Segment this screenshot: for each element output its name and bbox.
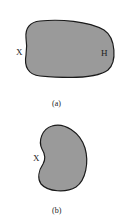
figure-canvas: X H (a) X (b) xyxy=(0,0,119,216)
label-h-a: H xyxy=(101,48,108,58)
label-x-a: X xyxy=(16,47,23,57)
label-x-b: X xyxy=(33,153,40,163)
panel-a: X H (a) xyxy=(16,20,114,108)
caption-a: (a) xyxy=(52,99,61,108)
caption-b: (b) xyxy=(52,206,62,215)
panel-b: X (b) xyxy=(33,125,87,215)
shape-b xyxy=(39,125,87,191)
